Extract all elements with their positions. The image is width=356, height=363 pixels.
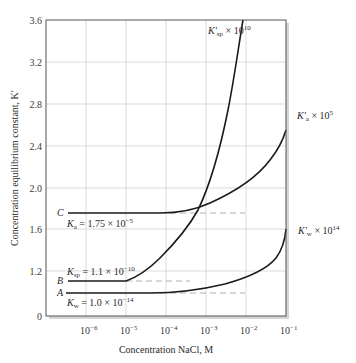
chart: 3.6 3.2 2.8 2.4 2.0 1.6 1.2 0 10−6 10−5 … bbox=[0, 0, 356, 363]
kw-curve-label: K′w × 1014 bbox=[297, 224, 340, 238]
x-tick-labels: 10−6 10−5 10−4 10−3 10−2 10−1 bbox=[80, 324, 298, 336]
svg-text:10−5: 10−5 bbox=[120, 324, 138, 336]
svg-text:3.2: 3.2 bbox=[30, 57, 43, 68]
y-tick-labels: 3.6 3.2 2.8 2.4 2.0 1.6 1.2 0 bbox=[30, 15, 43, 322]
svg-text:10−3: 10−3 bbox=[200, 324, 218, 336]
ka-label: Ka = 1.75 × 10−5 bbox=[66, 217, 134, 231]
letter-c: C bbox=[57, 207, 64, 218]
svg-text:10−1: 10−1 bbox=[280, 324, 298, 336]
y-axis-label: Concentration equilibrium constant, K′ bbox=[9, 90, 20, 246]
svg-text:10−2: 10−2 bbox=[240, 324, 258, 336]
svg-text:2.0: 2.0 bbox=[30, 183, 43, 194]
letter-a: A bbox=[56, 287, 64, 298]
ka-curve-label: K′a × 105 bbox=[296, 109, 334, 123]
svg-text:10−4: 10−4 bbox=[160, 324, 178, 336]
svg-text:2.4: 2.4 bbox=[30, 141, 43, 152]
svg-text:1.2: 1.2 bbox=[30, 266, 43, 277]
svg-text:3.6: 3.6 bbox=[30, 15, 43, 26]
svg-text:0: 0 bbox=[37, 311, 42, 322]
letter-b: B bbox=[57, 275, 63, 286]
svg-text:10−6: 10−6 bbox=[80, 324, 98, 336]
svg-text:2.8: 2.8 bbox=[30, 99, 43, 110]
x-axis-label: Concentration NaCl, M bbox=[119, 344, 213, 355]
svg-text:1.6: 1.6 bbox=[30, 224, 43, 235]
